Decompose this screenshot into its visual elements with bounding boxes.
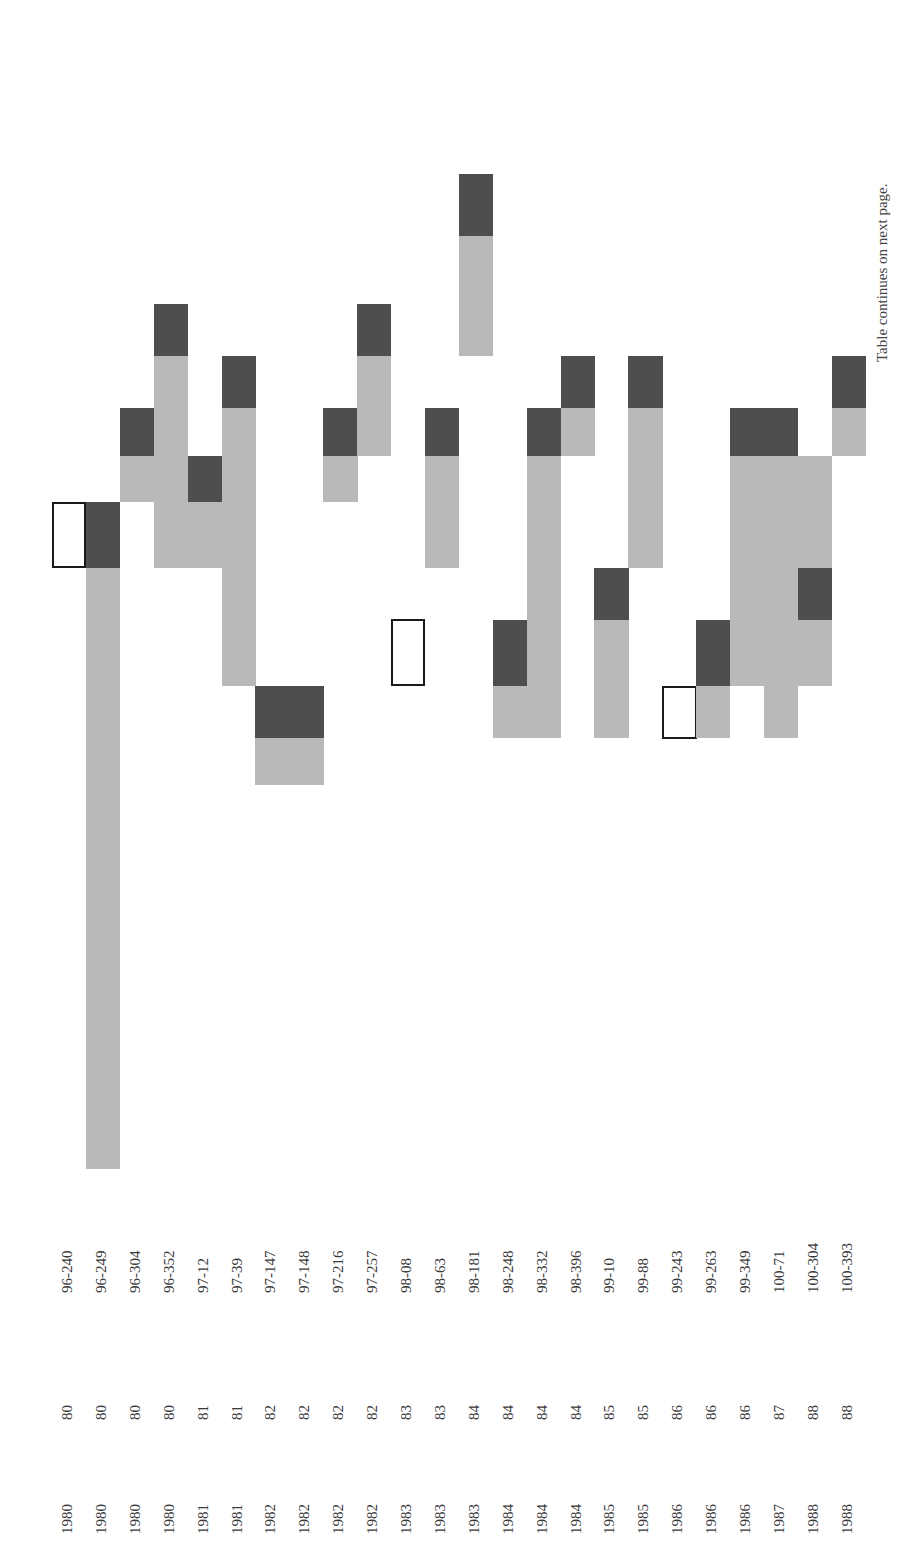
light-cell — [493, 686, 527, 738]
citation-label: 97-12 — [195, 1258, 212, 1293]
dark-cell — [493, 620, 527, 686]
volume-label: 88 — [805, 1405, 822, 1420]
light-cell — [289, 738, 323, 785]
citation-label: 97-39 — [229, 1258, 246, 1293]
volume-label: 84 — [534, 1405, 551, 1420]
volume-label: 82 — [330, 1405, 347, 1420]
dark-cell — [425, 408, 459, 456]
year-label: 1983 — [432, 1504, 449, 1534]
dark-cell — [764, 408, 798, 456]
citation-label: 97-257 — [364, 1251, 381, 1294]
citation-label: 98-63 — [432, 1258, 449, 1293]
citation-label: 99-263 — [703, 1251, 720, 1294]
dark-cell — [86, 502, 120, 568]
citation-label: 100-393 — [839, 1243, 856, 1293]
light-cell — [222, 408, 256, 686]
year-label: 1980 — [161, 1504, 178, 1534]
light-cell — [255, 738, 289, 785]
dark-cell — [222, 356, 256, 408]
citation-label: 98-248 — [500, 1251, 517, 1294]
outline-cell — [662, 686, 696, 739]
year-label: 1985 — [635, 1504, 652, 1534]
citation-label: 96-304 — [127, 1251, 144, 1294]
dark-cell — [154, 304, 188, 356]
volume-label: 82 — [296, 1405, 313, 1420]
dark-cell — [527, 408, 561, 456]
volume-label: 80 — [93, 1405, 110, 1420]
dark-cell — [323, 408, 357, 456]
year-label: 1988 — [805, 1504, 822, 1534]
year-label: 1984 — [534, 1504, 551, 1534]
year-label: 1984 — [500, 1504, 517, 1534]
year-label: 1982 — [364, 1504, 381, 1534]
year-label: 1980 — [127, 1504, 144, 1534]
dark-cell — [696, 620, 730, 686]
light-cell — [561, 408, 595, 456]
volume-label: 88 — [839, 1405, 856, 1420]
light-cell — [188, 502, 222, 568]
dark-cell — [730, 408, 764, 456]
volume-label: 84 — [500, 1405, 517, 1420]
light-cell — [832, 408, 866, 456]
citation-label: 96-240 — [59, 1251, 76, 1294]
dark-cell — [459, 174, 493, 236]
volume-label: 82 — [262, 1405, 279, 1420]
dark-cell — [357, 304, 391, 356]
volume-label: 81 — [195, 1405, 212, 1420]
volume-label: 83 — [398, 1405, 415, 1420]
dark-cell — [188, 456, 222, 502]
citation-label: 96-352 — [161, 1251, 178, 1294]
table-continues-note: Table continues on next page. — [874, 184, 891, 362]
year-label: 1981 — [229, 1504, 246, 1534]
year-label: 1982 — [296, 1504, 313, 1534]
year-label: 1983 — [398, 1504, 415, 1534]
year-label: 1983 — [466, 1504, 483, 1534]
volume-label: 80 — [161, 1405, 178, 1420]
year-label: 1980 — [59, 1504, 76, 1534]
outline-cell — [52, 502, 86, 568]
dark-cell — [561, 356, 595, 408]
year-label: 1987 — [771, 1504, 788, 1534]
year-label: 1986 — [737, 1504, 754, 1534]
year-label: 1985 — [601, 1504, 618, 1534]
year-label: 1982 — [262, 1504, 279, 1534]
light-cell — [120, 456, 154, 502]
volume-label: 80 — [59, 1405, 76, 1420]
dark-cell — [255, 686, 289, 738]
light-cell — [798, 620, 832, 686]
volume-label: 84 — [568, 1405, 585, 1420]
volume-label: 86 — [669, 1405, 686, 1420]
dark-cell — [289, 686, 323, 738]
year-label: 1986 — [669, 1504, 686, 1534]
light-cell — [425, 456, 459, 568]
dark-cell — [832, 356, 866, 408]
volume-label: 82 — [364, 1405, 381, 1420]
light-cell — [594, 620, 628, 738]
light-cell — [154, 356, 188, 568]
citation-label: 97-148 — [296, 1251, 313, 1294]
citation-label: 99-349 — [737, 1251, 754, 1294]
year-label: 1982 — [330, 1504, 347, 1534]
citation-label: 99-88 — [635, 1258, 652, 1293]
citation-label: 98-396 — [568, 1251, 585, 1294]
year-label: 1988 — [839, 1504, 856, 1534]
dark-cell — [594, 568, 628, 620]
citation-label: 100-71 — [771, 1251, 788, 1294]
light-cell — [323, 456, 357, 502]
light-cell — [86, 568, 120, 1169]
year-label: 1980 — [93, 1504, 110, 1534]
year-label: 1981 — [195, 1504, 212, 1534]
citation-label: 99-10 — [601, 1258, 618, 1293]
citation-label: 98-181 — [466, 1251, 483, 1294]
rotated-table-chart: 19808096-24019808096-24919808096-3041980… — [0, 0, 915, 1552]
light-cell — [527, 456, 561, 738]
light-cell — [764, 456, 798, 738]
light-cell — [696, 686, 730, 738]
light-cell — [628, 408, 662, 568]
light-cell — [798, 456, 832, 568]
volume-label: 80 — [127, 1405, 144, 1420]
citation-label: 97-147 — [262, 1251, 279, 1294]
outline-cell — [391, 619, 425, 686]
volume-label: 85 — [601, 1405, 618, 1420]
volume-label: 86 — [737, 1405, 754, 1420]
